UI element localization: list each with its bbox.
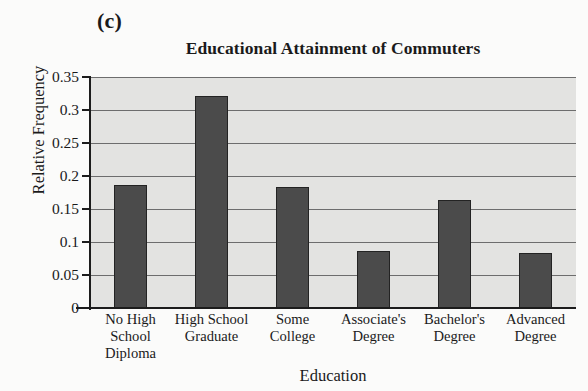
panel-letter: (c) [97,8,122,34]
gridline [90,209,576,210]
y-axis-tick [82,175,91,177]
y-axis-tick [82,241,91,243]
gridline [90,275,576,276]
y-axis-tick [82,109,91,111]
x-axis-category-label-line: College [246,328,339,345]
y-axis-tick-label: 0.25 [7,135,79,151]
bar [438,200,471,308]
y-axis-tick-label: 0.05 [7,267,79,283]
x-axis-category-label: AdvancedDegree [489,311,582,345]
x-axis-category-label-line: No High [84,311,177,328]
y-axis-tick-label: 0 [7,300,79,316]
bar [357,251,390,308]
y-axis-tick-label: 0.15 [7,201,79,217]
x-axis-category-label-line: Degree [408,328,501,345]
y-axis-tick [82,142,91,144]
y-axis-tick [82,274,91,276]
gridline [90,143,576,144]
y-axis-tick-labels: 00.050.10.150.20.250.30.35 [0,0,79,391]
x-axis-category-label: High SchoolGraduate [165,311,258,345]
gridline [90,77,576,78]
y-axis-tick [82,208,91,210]
bar-chart-figure: (c) Educational Attainment of Commuters … [0,0,588,391]
y-axis-tick-label: 0.1 [7,234,79,250]
x-axis-category-label-line: Associate's [327,311,420,328]
x-axis-category-label-line: Some [246,311,339,328]
x-axis-category-label: No HighSchoolDiploma [84,311,177,362]
x-axis-category-label-line: Bachelor's [408,311,501,328]
chart-title: Educational Attainment of Commuters [90,38,576,59]
x-axis-category-label-line: School [84,328,177,345]
y-axis-tick-label: 0.2 [7,168,79,184]
x-axis-category-label-line: Degree [327,328,420,345]
x-axis-category-label-line: Diploma [84,345,177,362]
x-axis-category-label-line: Graduate [165,328,258,345]
x-axis-category-label-line: High School [165,311,258,328]
gridline [90,242,576,243]
y-axis-tick-label: 0.3 [7,102,79,118]
bar [114,185,147,308]
bar [519,253,552,308]
y-axis-tick [82,76,91,78]
x-axis-category-label: Associate'sDegree [327,311,420,345]
y-axis-tick [82,307,91,309]
gridline [90,110,576,111]
x-axis-category-label: SomeCollege [246,311,339,345]
bar [276,187,309,308]
y-axis-tick-label: 0.35 [7,69,79,85]
x-axis-line [76,307,576,309]
x-axis-category-label: Bachelor'sDegree [408,311,501,345]
x-axis-category-labels: No HighSchoolDiplomaHigh SchoolGraduateS… [90,311,576,369]
gridline [90,176,576,177]
x-axis-title: Education [90,366,576,386]
plot-area [90,77,576,308]
bar [195,96,228,308]
x-axis-category-label-line: Advanced [489,311,582,328]
x-axis-category-label-line: Degree [489,328,582,345]
